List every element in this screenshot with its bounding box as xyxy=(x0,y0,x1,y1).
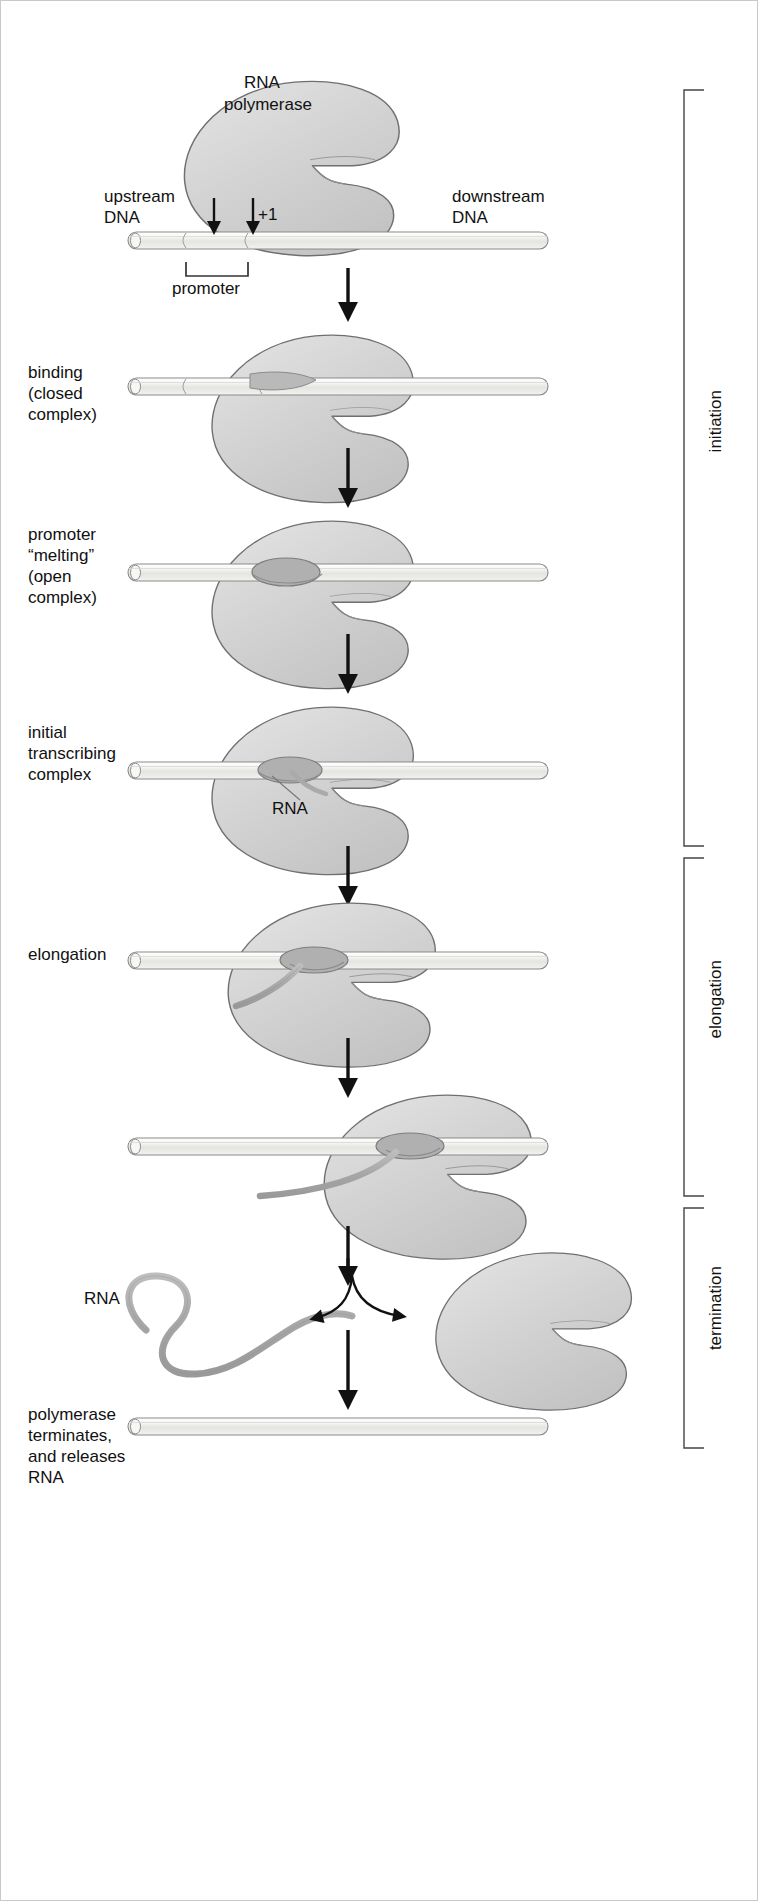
upstream-dna-label-line2: DNA xyxy=(104,207,140,228)
step-2-binding xyxy=(128,335,548,502)
step-3-melting xyxy=(128,521,548,688)
phase-label-termination: termination xyxy=(706,1266,726,1350)
phase-label-elongation: elongation xyxy=(706,960,726,1038)
step-label-binding-line3: complex) xyxy=(28,404,97,425)
step-label-release-line1: polymerase xyxy=(28,1404,116,1425)
step-label-melting-line3: (open xyxy=(28,566,71,587)
step-label-initial-line1: initial xyxy=(28,722,67,743)
step-5-elongation xyxy=(128,903,548,1088)
phase-label-elongation-text: elongation xyxy=(706,960,726,1038)
rna-label-initial-transcribing: RNA xyxy=(272,798,308,819)
step-label-release-line3: and releases xyxy=(28,1446,125,1467)
step-7-termination xyxy=(129,1253,632,1410)
phase-label-termination-text: termination xyxy=(706,1266,726,1350)
step-label-binding-line1: binding xyxy=(28,362,83,383)
plus-one-label: +1 xyxy=(258,204,277,225)
phase-bracket-elongation xyxy=(684,858,704,1196)
downstream-dna-label-line1: downstream xyxy=(452,186,545,207)
step-label-elongation: elongation xyxy=(28,944,106,965)
step-label-release-line4: RNA xyxy=(28,1467,64,1488)
step-4-initial-transcribing xyxy=(128,707,548,896)
rna-label-released: RNA xyxy=(84,1288,120,1309)
rna-polymerase-label-line1: RNA xyxy=(244,72,280,93)
step-label-melting-line1: promoter xyxy=(28,524,96,545)
step-label-initial-line3: complex xyxy=(28,764,91,785)
step-label-binding-line2: (closed xyxy=(28,383,83,404)
upstream-dna-label-line1: upstream xyxy=(104,186,175,207)
diagram-canvas xyxy=(0,0,758,1901)
step-label-release-line2: terminates, xyxy=(28,1425,112,1446)
step-8-release xyxy=(128,1418,548,1435)
step-label-melting-line4: complex) xyxy=(28,587,97,608)
phase-label-initiation: initiation xyxy=(706,390,726,452)
step-label-melting-line2: “melting” xyxy=(28,545,94,566)
promoter-label: promoter xyxy=(172,278,240,299)
phase-label-initiation-text: initiation xyxy=(706,390,726,452)
rna-polymerase-label-line2: polymerase xyxy=(224,94,312,115)
step-label-initial-line2: transcribing xyxy=(28,743,116,764)
phase-bracket-termination xyxy=(684,1208,704,1448)
transcription-diagram: RNA polymerase upstream DNA downstream D… xyxy=(0,0,758,1901)
phase-bracket-initiation xyxy=(684,90,704,846)
step-6-elongation-continued xyxy=(128,1095,548,1276)
downstream-dna-label-line2: DNA xyxy=(452,207,488,228)
